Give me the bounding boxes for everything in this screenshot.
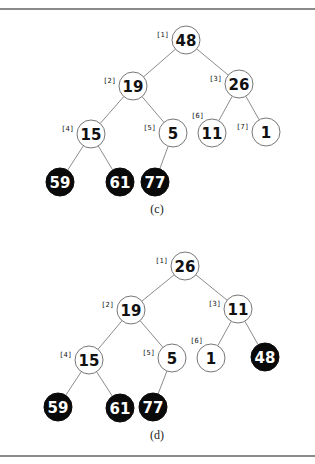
tree-edge	[97, 372, 113, 396]
tree-node: 59[8]	[30, 168, 74, 196]
node-index-label: [8]	[30, 173, 43, 181]
tree-edge	[68, 146, 84, 170]
node-value: 1	[261, 124, 271, 142]
node-value: 61	[110, 174, 131, 192]
tree-node: 15[4]	[59, 346, 103, 374]
node-index-label: [4]	[61, 125, 74, 133]
tree-edge	[100, 97, 124, 124]
caption-d: (d)	[137, 428, 177, 443]
tree-edge	[197, 49, 228, 75]
tree-node: 26[3]	[209, 70, 253, 98]
tree-edge	[66, 372, 82, 396]
node-index-label: [3]	[208, 300, 221, 308]
tree-node: 77[10]	[130, 161, 169, 196]
node-value: 19	[123, 78, 144, 96]
node-value: 26	[229, 76, 250, 94]
tree-node: 61[9]	[90, 168, 134, 196]
heap-tree-d: 26[1]19[2]11[3]15[4]5[5]1[6]48[7]59[8]61…	[28, 252, 279, 422]
tree-edge	[158, 371, 167, 394]
node-index-label: [5]	[143, 124, 156, 132]
node-index-label: [7]	[235, 348, 248, 356]
node-value: 48	[176, 32, 197, 50]
tree-edge	[218, 321, 231, 345]
node-value: 19	[121, 302, 142, 320]
heap-diagrams: 48[1]19[2]26[3]15[4]5[5]11[6]1[7]59[8]61…	[0, 0, 315, 464]
node-index-label: [2]	[103, 77, 116, 85]
tree-edge	[246, 96, 259, 120]
tree-node: 59[8]	[28, 393, 72, 421]
node-index-label: [9]	[90, 399, 103, 407]
tree-node: 1[7]	[236, 118, 280, 146]
tree-edge	[142, 275, 174, 301]
node-value: 1	[206, 350, 216, 368]
tree-node: 19[2]	[101, 296, 145, 324]
tree-node: 48[1]	[156, 26, 200, 54]
tree-node: 11[3]	[208, 295, 252, 323]
node-value: 5	[167, 350, 177, 368]
tree-edge	[98, 321, 122, 350]
node-value: 15	[81, 126, 102, 144]
node-index-label: [8]	[28, 398, 41, 406]
tree-node: 5[5]	[143, 119, 187, 147]
node-value: 59	[48, 399, 69, 417]
heap-tree-c: 48[1]19[2]26[3]15[4]5[5]11[6]1[7]59[8]61…	[30, 26, 280, 196]
tree-node: 15[4]	[61, 120, 105, 148]
tree-edge	[219, 96, 232, 120]
node-index-label: [10]	[130, 161, 147, 169]
tree-edge	[160, 146, 168, 169]
tree-node: 26[1]	[155, 252, 199, 280]
node-value: 11	[228, 301, 249, 319]
node-value: 11	[202, 125, 223, 143]
tree-edge	[98, 146, 113, 170]
tree-edge	[196, 275, 227, 300]
node-value: 26	[175, 258, 196, 276]
node-value: 5	[168, 125, 178, 143]
node-value: 77	[145, 174, 166, 192]
tree-edge	[245, 321, 258, 345]
node-index-label: [5]	[142, 349, 155, 357]
node-value: 61	[110, 400, 131, 418]
node-value: 59	[50, 174, 71, 192]
tree-node: 77[10]	[128, 386, 167, 421]
tree-node: 61[9]	[90, 394, 134, 422]
node-index-label: [2]	[101, 301, 114, 309]
tree-edge	[144, 49, 176, 77]
node-index-label: [1]	[156, 31, 169, 39]
node-value: 15	[79, 352, 100, 370]
node-value: 77	[143, 399, 164, 417]
node-index-label: [1]	[155, 257, 168, 265]
tree-node: 19[2]	[103, 72, 147, 100]
node-index-label: [6]	[191, 112, 204, 120]
node-index-label: [7]	[236, 123, 249, 131]
tree-edge	[142, 97, 164, 123]
caption-c: (c)	[137, 202, 177, 217]
tree-edge	[140, 321, 163, 348]
node-index-label: [4]	[59, 351, 72, 359]
node-index-label: [3]	[209, 75, 222, 83]
tree-node: 48[7]	[235, 343, 279, 371]
node-index-label: [9]	[90, 173, 103, 181]
node-value: 48	[255, 349, 276, 367]
node-index-label: [6]	[190, 337, 203, 345]
node-index-label: [10]	[128, 386, 145, 394]
tree-node: 5[5]	[142, 344, 186, 372]
